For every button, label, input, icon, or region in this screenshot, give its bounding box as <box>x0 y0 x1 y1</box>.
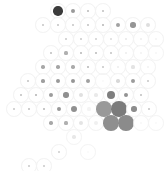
hex-cell[interactable] <box>35 17 51 33</box>
hex-cell[interactable] <box>133 115 149 131</box>
hex-cell[interactable] <box>88 115 104 131</box>
hex-cell[interactable] <box>6 101 22 117</box>
hex-cell[interactable] <box>80 144 96 160</box>
hex-tile-map <box>0 0 168 171</box>
hex-cell[interactable] <box>36 158 52 171</box>
hex-cell[interactable] <box>21 101 37 117</box>
hex-cell[interactable] <box>148 115 164 131</box>
hex-cell[interactable] <box>43 115 59 131</box>
hex-cell[interactable] <box>51 144 67 160</box>
hex-cell[interactable] <box>66 129 82 145</box>
hex-cell[interactable] <box>103 115 119 131</box>
hex-cell[interactable] <box>118 115 134 131</box>
hex-cell[interactable] <box>21 158 37 171</box>
